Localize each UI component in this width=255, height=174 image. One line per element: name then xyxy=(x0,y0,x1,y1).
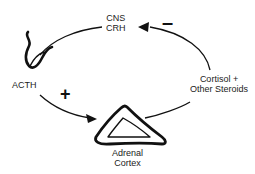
edge-adrenal-to-cortisol xyxy=(145,102,190,118)
edge-cortisol-to-cns xyxy=(150,27,210,70)
cns-label: CNS xyxy=(106,13,126,23)
cortisol-label: Cortisol + xyxy=(190,74,248,84)
acth-label: ACTH xyxy=(12,80,37,90)
adrenal-gland-icon xyxy=(96,106,166,144)
node-cns-crh: CNS CRH xyxy=(106,13,126,33)
pituitary-icon xyxy=(26,32,52,68)
node-adrenal-cortex: Adrenal Cortex xyxy=(112,148,143,168)
arrowhead-adrenal xyxy=(86,114,97,123)
stimulate-sign: + xyxy=(60,84,71,105)
arrowhead-cns xyxy=(138,22,149,32)
edge-cns-to-acth xyxy=(40,27,102,55)
node-cortisol: Cortisol + Other Steroids xyxy=(190,74,248,94)
inhibit-sign: – xyxy=(162,11,173,34)
node-acth: ACTH xyxy=(12,80,37,90)
crh-label: CRH xyxy=(106,23,126,33)
adrenal-label: Adrenal xyxy=(112,148,143,158)
cortex-label: Cortex xyxy=(112,158,143,168)
other-steroids-label: Other Steroids xyxy=(190,84,248,94)
